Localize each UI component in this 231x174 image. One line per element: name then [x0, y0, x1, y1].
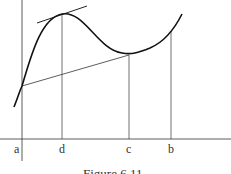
label-c: c [126, 142, 131, 156]
secant-line [22, 55, 129, 86]
figure-diagram: a d c b Figure 6.11 [0, 0, 231, 174]
figure-caption: Figure 6.11 [83, 166, 142, 174]
label-a: a [14, 142, 20, 156]
function-curve [14, 14, 182, 107]
label-d: d [59, 142, 65, 156]
label-b: b [168, 142, 174, 156]
